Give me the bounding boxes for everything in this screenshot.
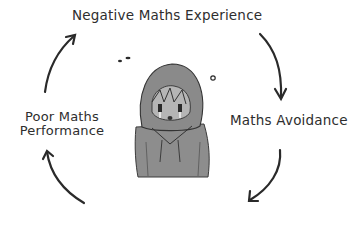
arrow-down-icon <box>260 34 281 98</box>
arrow-up-icon <box>47 152 84 203</box>
arrow-up-right-icon <box>45 36 74 92</box>
arrow-down-left-icon <box>250 150 280 200</box>
sad-child-illustration <box>112 52 232 182</box>
